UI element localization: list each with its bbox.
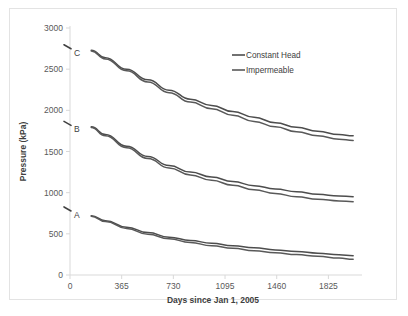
chart-screenshot: 0500100015002000250030000365730109514601… xyxy=(0,0,408,316)
x-tick-label: 1460 xyxy=(267,281,286,291)
series-line-B-constant-head xyxy=(91,127,353,197)
x-axis-title: Days since Jan 1, 2005 xyxy=(167,295,259,305)
y-tick-label: 3000 xyxy=(44,23,63,33)
y-axis-title: Pressure (kPa) xyxy=(18,122,28,182)
y-tick-label: 0 xyxy=(58,270,63,280)
y-tick-label: 2000 xyxy=(44,105,63,115)
y-tick-label: 500 xyxy=(49,229,63,239)
y-tick-label: 1500 xyxy=(44,147,63,157)
series-line-C-constant-head xyxy=(91,50,353,136)
series-line-C-impermeable xyxy=(91,51,353,140)
x-tick-label: 0 xyxy=(68,281,73,291)
x-tick-label: 730 xyxy=(166,281,180,291)
annotation-label-B: B xyxy=(74,124,80,134)
y-tick-label: 2500 xyxy=(44,64,63,74)
legend-label-0: Constant Head xyxy=(246,51,301,60)
x-tick-label: 365 xyxy=(115,281,129,291)
series-line-A-constant-head xyxy=(91,216,353,256)
y-tick-label: 1000 xyxy=(44,188,63,198)
pressure-vs-days-line-chart: 0500100015002000250030000365730109514601… xyxy=(0,0,408,316)
x-tick-label: 1825 xyxy=(319,281,338,291)
series-line-B-impermeable xyxy=(91,128,353,202)
legend-label-1: Impermeable xyxy=(246,66,294,75)
annotation-label-C: C xyxy=(74,48,80,58)
annotation-label-A: A xyxy=(74,210,80,220)
x-tick-label: 1095 xyxy=(216,281,235,291)
